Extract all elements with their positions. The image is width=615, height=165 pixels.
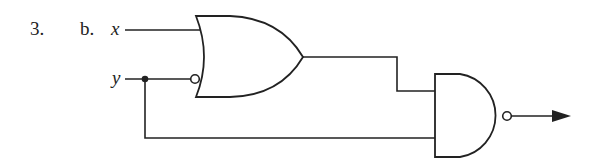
problem-number: 3. xyxy=(30,18,44,39)
problem-part: b. xyxy=(80,18,94,39)
input-label-y: y xyxy=(110,67,121,88)
or-input-inversion-bubble xyxy=(191,75,200,84)
input-label-x: x xyxy=(110,18,120,39)
nand-output-bubble xyxy=(503,112,512,121)
or-gate xyxy=(196,16,303,97)
logic-circuit-diagram: 3. b. x y xyxy=(0,0,615,165)
nand-gate xyxy=(435,74,496,157)
wire-or-to-nand xyxy=(303,57,435,91)
wire-y-to-nand xyxy=(145,79,435,138)
arrow-head-icon xyxy=(552,110,571,122)
